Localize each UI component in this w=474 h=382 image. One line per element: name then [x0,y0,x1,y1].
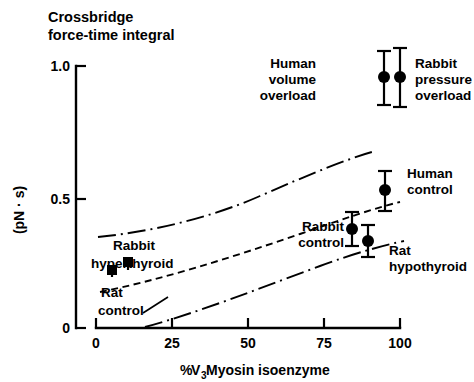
leader-rat-control [143,297,168,313]
legend-point-human-volume-overload [377,51,391,105]
x-tick-label-100: 100 [388,335,412,351]
label-rabbit-hyperthyroid-line2: hyperthyroid [91,256,174,271]
figure-panel: Crossbridge force-time integral 1.0 0.5 … [0,0,474,382]
y-tick-label-1.0: 1.0 [51,58,71,74]
marker-human-volume-overload [378,71,390,83]
label-rat-hypothyroid-line2: hypothyroid [389,259,467,274]
marker-rat-hypothyroid [362,235,374,247]
marker-human-control [379,184,391,196]
chart-svg: Crossbridge force-time integral 1.0 0.5 … [0,0,474,382]
label-rabbit-hyperthyroid-line1: Rabbit [113,238,156,253]
x-axis-label: % V 3 Myosin isoenzyme [180,362,330,381]
x-axis: 0 25 50 75 100 % V 3 Myosin isoenzyme [92,318,412,381]
chart-title-line2: force-time integral [48,27,175,43]
legend-label-human-volume-overload-line1: Human [270,56,316,71]
legend-label-rabbit-pressure-overload-line1: Rabbit [415,56,458,71]
x-axis-label-rest: Myosin isoenzyme [206,362,330,378]
x-tick-label-50: 50 [240,335,256,351]
label-rabbit-control-line2: control [298,235,344,250]
marker-rabbit-control [346,223,358,235]
label-human-control-line2: control [407,182,453,197]
x-axis-label-v: V [191,362,201,378]
x-tick-label-25: 25 [164,335,180,351]
y-axis-caption: (pN · s) [11,186,27,234]
legend-markers-group [377,48,407,107]
legend-label-rabbit-pressure-overload-line2: pressure [415,72,473,87]
point-rat-hypothyroid [361,225,375,257]
legend-label-human-volume-overload-line2: volume [269,72,317,87]
label-rat-control-line1: Rat [101,285,123,300]
legend-label-human-volume-overload-line3: overload [260,88,316,103]
label-rat-control-line2: control [98,303,144,318]
x-tick-label-0: 0 [92,335,100,351]
marker-rabbit-pressure-overload [394,71,406,83]
chart-title-line1: Crossbridge [48,9,133,25]
y-tick-label-0: 0 [62,320,70,336]
label-rat-hypothyroid-line1: Rat [389,243,411,258]
label-rabbit-control-line1: Rabbit [302,219,345,234]
y-tick-label-0.5: 0.5 [51,191,71,207]
label-human-control-line1: Human [407,166,453,181]
legend-label-rabbit-pressure-overload-line3: overload [415,88,471,103]
y-axis: 1.0 0.5 0 (pN · s) [11,58,86,336]
x-tick-label-75: 75 [316,335,332,351]
lower-confidence-curve [145,241,404,327]
legend-point-rabbit-pressure-overload [393,48,407,107]
